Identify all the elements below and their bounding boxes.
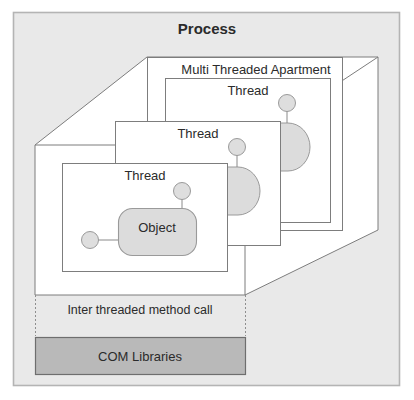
page-title: Process: [178, 20, 236, 37]
inter-thread-label: Inter threaded method call: [67, 303, 212, 317]
lollipop-front-top: [174, 183, 191, 200]
lollipop-back: [279, 95, 296, 112]
object-label: Object: [138, 220, 176, 235]
com-threading-diagram: Process Multi Threaded Apart: [0, 0, 414, 400]
thread-label-back: Thread: [227, 83, 268, 98]
thread-label-middle: Thread: [177, 126, 218, 141]
com-libraries-box: COM Libraries: [36, 338, 246, 375]
apartment-label: Multi Threaded Apartment: [181, 62, 331, 77]
com-libraries-label: COM Libraries: [98, 349, 182, 364]
thread-panel-front: Thread Object: [63, 164, 228, 272]
lollipop-front-left: [82, 232, 99, 249]
thread-label-front: Thread: [124, 168, 165, 183]
lollipop-middle: [229, 139, 246, 156]
